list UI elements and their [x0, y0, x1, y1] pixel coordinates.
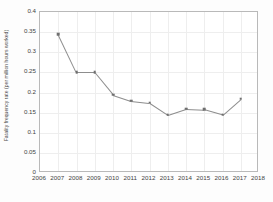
data-point-marker [185, 107, 188, 110]
series-line-segment [222, 99, 241, 116]
series-line-segment [94, 73, 113, 96]
x-axis-tick-labels: 2006200720082009201020112012201320142015… [39, 175, 258, 187]
series-line-segment [58, 34, 77, 73]
data-point-marker [203, 108, 206, 111]
data-point-marker [75, 71, 78, 74]
x-tick-label: 2008 [69, 175, 83, 181]
y-tick-label: 0.35 [24, 28, 36, 34]
data-point-marker [166, 113, 169, 116]
y-tick-label: 0.3 [27, 48, 36, 54]
y-tick-label: 0.05 [24, 149, 36, 155]
y-tick-label: 0.1 [27, 129, 36, 135]
plot-area [39, 11, 258, 172]
series-line-segment [113, 95, 131, 102]
y-tick-label: 0.25 [24, 68, 36, 74]
data-point-marker [130, 99, 133, 102]
y-axis-tick-labels: 00.050.10.150.20.250.30.350.4 [14, 0, 38, 172]
x-tick-label: 2010 [105, 175, 119, 181]
data-point-marker [57, 33, 60, 36]
x-tick-label: 2007 [50, 175, 64, 181]
y-tick-label: 0.15 [24, 109, 36, 115]
data-series [40, 12, 257, 171]
y-axis-title: Fatality frequency rate (per million hou… [0, 0, 14, 172]
x-tick-label: 2017 [233, 175, 247, 181]
x-tick-label: 2009 [87, 175, 101, 181]
series-line-segment [131, 101, 149, 104]
series-line-segment [168, 109, 186, 116]
data-point-marker [93, 71, 96, 74]
y-tick-label: 0.2 [27, 88, 36, 94]
line-chart: Fatality frequency rate (per million hou… [0, 0, 273, 202]
x-tick-label: 2011 [124, 175, 137, 181]
data-point-marker [221, 113, 224, 116]
series-line-segment [77, 72, 95, 73]
x-tick-label: 2015 [196, 175, 210, 181]
series-line-segment [186, 109, 204, 111]
y-tick-label: 0.4 [27, 8, 36, 14]
x-tick-label: 2006 [32, 175, 46, 181]
data-point-marker [112, 93, 115, 96]
x-tick-label: 2013 [160, 175, 174, 181]
y-axis-title-text: Fatality frequency rate (per million hou… [4, 30, 9, 141]
x-tick-label: 2012 [142, 175, 156, 181]
x-tick-label: 2016 [215, 175, 229, 181]
series-line-segment [204, 109, 222, 115]
x-tick-label: 2018 [251, 175, 265, 181]
data-point-marker [239, 97, 242, 100]
x-tick-label: 2014 [178, 175, 192, 181]
series-line-segment [149, 103, 168, 116]
data-point-marker [148, 101, 151, 104]
